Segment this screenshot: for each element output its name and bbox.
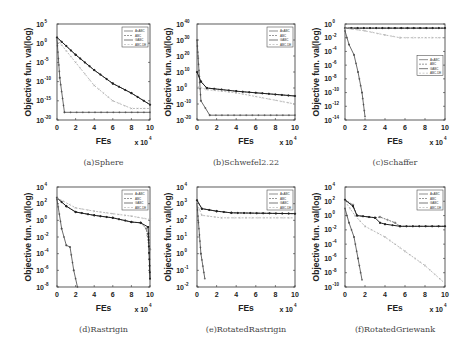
y-tick-label: 10 [324, 241, 332, 248]
y-tick-label: 10 [324, 226, 332, 233]
y-tick-label: 10 [324, 284, 332, 291]
legend-entry: ABC-DE [430, 206, 441, 210]
subfigure-caption: (f)RotatedGriewank [320, 325, 467, 334]
svg-text:4: 4 [333, 182, 336, 187]
x-tick-label: 0 [343, 291, 347, 298]
svg-text:-10: -10 [333, 282, 340, 287]
x-tick-label: 2 [363, 291, 367, 298]
y-tick-label: 10 [324, 269, 332, 276]
y-tick-label: 10 [324, 184, 332, 191]
svg-text:-4: -4 [333, 239, 337, 244]
y-axis-label: Objective fun. val(log) [311, 192, 321, 281]
legend-entry: GABC [430, 201, 439, 205]
svg-text:4: 4 [444, 303, 447, 308]
x-tick-label: 8 [423, 291, 427, 298]
svg-text:-6: -6 [333, 253, 337, 258]
chart-legend: AsABCABCGABCABC-DE [417, 190, 443, 210]
svg-text:-8: -8 [333, 268, 337, 273]
svg-text:-2: -2 [333, 225, 337, 230]
y-tick-label: 10 [324, 255, 332, 262]
x-multiplier: x 10 [429, 306, 443, 313]
legend-entry: ABC [430, 197, 437, 201]
x-tick-label: 4 [383, 291, 387, 298]
x-tick-label: 6 [403, 291, 407, 298]
legend-entry: AsABC [430, 192, 441, 196]
y-tick-label: 10 [324, 212, 332, 219]
y-tick-label: 10 [324, 198, 332, 205]
x-tick-label: 10 [441, 291, 449, 298]
svg-text:2: 2 [333, 196, 336, 201]
x-axis-label: FEs [387, 303, 403, 313]
svg-text:0: 0 [333, 210, 336, 215]
